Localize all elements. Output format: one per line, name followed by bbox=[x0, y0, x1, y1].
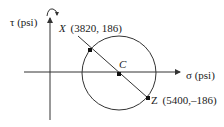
rotation-arrow-icon bbox=[47, 9, 57, 16]
point-c bbox=[117, 72, 121, 76]
point-z-coords: (5400,–186) bbox=[162, 94, 216, 107]
diameter-line bbox=[78, 36, 148, 98]
mohr-circle-diagram: τ (psi) σ (psi) X (3820, 186) C Z (5400,… bbox=[0, 0, 224, 127]
point-z-label: Z (5400,–186) bbox=[151, 94, 217, 107]
point-x bbox=[88, 48, 92, 52]
point-x-name: X bbox=[58, 22, 67, 34]
point-c-label: C bbox=[119, 58, 127, 70]
sigma-axis-label: σ (psi) bbox=[186, 69, 215, 82]
point-x-label: X (3820, 186) bbox=[58, 22, 122, 35]
tau-axis-label: τ (psi) bbox=[10, 16, 38, 29]
point-z bbox=[146, 96, 150, 100]
point-x-coords: (3820, 186) bbox=[70, 22, 122, 35]
point-z-name: Z bbox=[151, 94, 158, 106]
